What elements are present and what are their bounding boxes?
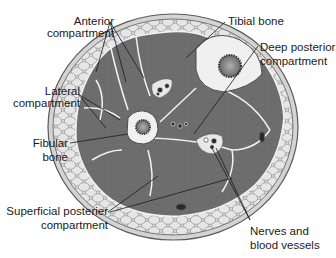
label-line: Tibial bone <box>228 14 284 28</box>
label-line: compartment <box>20 26 114 40</box>
label-superficial-posterior-compartment: Superficial posterier compartment <box>0 204 108 232</box>
label-nerves-and-blood-vessels: Nerves and blood vessels <box>250 224 320 252</box>
label-line: Nerves and <box>250 224 320 238</box>
label-line: blood vessels <box>250 238 320 252</box>
label-line: Deep posterior <box>260 40 335 54</box>
label-anterior-compartment-line2: compartment <box>20 26 114 40</box>
fibular-bone <box>127 111 158 144</box>
label-line: Superficial posterier <box>0 204 108 218</box>
label-line: compartment <box>260 54 335 68</box>
label-deep-posterior-compartment: Deep posterior compartment <box>260 40 335 68</box>
label-line: compartment <box>0 218 108 232</box>
label-fibular-bone: Fibular bone <box>10 136 68 164</box>
label-lateral-compartment-line2: compartment <box>0 96 80 110</box>
label-line: compartment <box>0 96 80 110</box>
label-tibial-bone: Tibial bone <box>228 14 284 28</box>
label-line: bone <box>10 150 68 164</box>
label-line: Fibular <box>10 136 68 150</box>
